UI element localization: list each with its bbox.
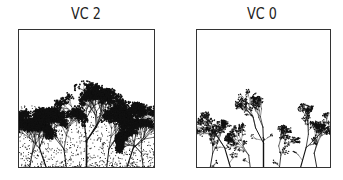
panel-title-vc2: VC 2 (61, 5, 112, 23)
sparse-branching-tree-figure (197, 30, 330, 167)
tree-panel-vc2 (18, 29, 155, 168)
panel-title-vc0: VC 0 (237, 5, 288, 23)
dense-branching-tree-figure (19, 30, 154, 167)
tree-panel-vc0 (196, 29, 331, 168)
